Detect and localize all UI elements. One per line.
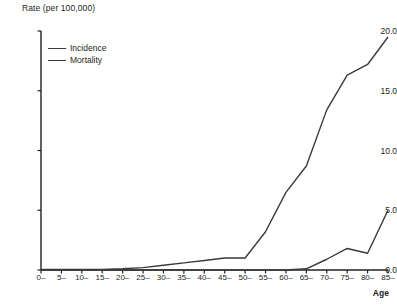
legend-label-mortality: Mortality bbox=[70, 55, 102, 65]
series-line-incidence bbox=[41, 37, 388, 269]
rate-by-age-line-chart: Rate (per 100,000) Age 0.05.010.015.020.… bbox=[0, 0, 397, 308]
axis-lines bbox=[38, 31, 389, 274]
series-line-mortality bbox=[41, 210, 388, 270]
legend-swatch-mortality bbox=[48, 60, 66, 61]
plot-area bbox=[0, 0, 397, 308]
legend-label-incidence: Incidence bbox=[70, 43, 106, 53]
legend-swatch-incidence bbox=[48, 48, 66, 49]
series-lines bbox=[41, 37, 388, 270]
